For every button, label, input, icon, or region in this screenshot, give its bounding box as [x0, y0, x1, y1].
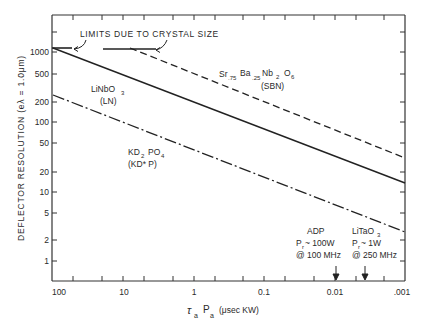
x-axis-ticks [73, 15, 384, 281]
limit-arrows [74, 40, 167, 53]
x-tick-0.1: 0.1 [258, 287, 270, 297]
sbn-label: Sr .75 Ba .25 Nb 2 O 6 (SBN) [219, 68, 295, 91]
x-label-tau: τ [187, 304, 192, 316]
x-label-units: (μsec KW) [219, 305, 259, 315]
ln-sub: 3 [121, 90, 125, 96]
litao3-arrow [362, 266, 368, 280]
y-tick-10: 10 [40, 187, 50, 197]
x-tick-0.001: .001 [394, 287, 411, 297]
adp-arrow [333, 266, 339, 280]
adp-power: ~ 100W [305, 238, 335, 248]
lt-name: LiTaO [352, 226, 375, 236]
x-label-sub-a2: a [210, 312, 214, 319]
x-tick-labels: 100 10 1 0.1 0.01 .001 [52, 287, 411, 297]
chart: 1000 500 200 100 50 20 10 5 2 1 100 10 1… [0, 0, 426, 327]
sbn-ba: Ba [240, 68, 251, 78]
litao3-annotation: LiTaO 3 P r ~ 1W @ 250 MHz [352, 226, 397, 260]
x-label-P: P [203, 304, 210, 315]
y-tick-2: 2 [44, 235, 49, 245]
sbn-o-sub: 6 [291, 74, 295, 80]
y-axis-label: DEFLECTOR RESOLUTION (eλ = 1.0μm) [16, 55, 26, 241]
kdp-po: PO [148, 147, 161, 157]
x-tick-1: 1 [192, 287, 197, 297]
y-tick-20: 20 [40, 167, 50, 177]
y-tick-5: 5 [44, 208, 49, 218]
y-tick-200: 200 [35, 97, 49, 107]
y-tick-500: 500 [35, 69, 49, 79]
y-tick-100: 100 [35, 117, 49, 127]
kdp-kd: KD [128, 147, 140, 157]
kdp-po-sub: 4 [161, 153, 165, 159]
x-tick-100: 100 [52, 287, 66, 297]
adp-annotation: ADP P r ~ 100W @ 100 MHz [296, 226, 341, 260]
sbn-sr: Sr [219, 69, 228, 79]
lt-freq: @ 250 MHz [352, 250, 397, 260]
sbn-ba-sub: .25 [252, 75, 261, 81]
sbn-o: O [284, 68, 291, 78]
kdp-abbr: (KD* P) [128, 159, 157, 169]
ln-label: LiNbO 3 (LN) [91, 84, 125, 106]
x-axis-label: τ a P a (μsec KW) [187, 304, 259, 319]
ln-abbr: (LN) [100, 96, 117, 106]
kdp-label: KD 2 PO 4 (KD* P) [128, 147, 165, 169]
x-label-sub-a1: a [194, 312, 198, 319]
ln-formula: LiNbO [91, 84, 115, 94]
x-tick-0.01: 0.01 [327, 287, 344, 297]
sbn-nb-sub: 2 [276, 74, 280, 80]
sbn-nb: Nb [262, 68, 273, 78]
y-tick-1: 1 [44, 256, 49, 266]
adp-name: ADP [307, 226, 325, 236]
sbn-sr-sub: .75 [228, 75, 237, 81]
y-tick-50: 50 [40, 138, 50, 148]
sbn-abbr: (SBN) [261, 81, 284, 91]
x-tick-10: 10 [119, 287, 129, 297]
y-tick-labels: 1000 500 200 100 50 20 10 5 2 1 [30, 47, 49, 266]
adp-freq: @ 100 MHz [296, 250, 341, 260]
lt-power: ~ 1W [361, 238, 381, 248]
limits-annotation: LIMITS DUE TO CRYSTAL SIZE [80, 29, 219, 39]
y-tick-1000: 1000 [30, 47, 49, 57]
